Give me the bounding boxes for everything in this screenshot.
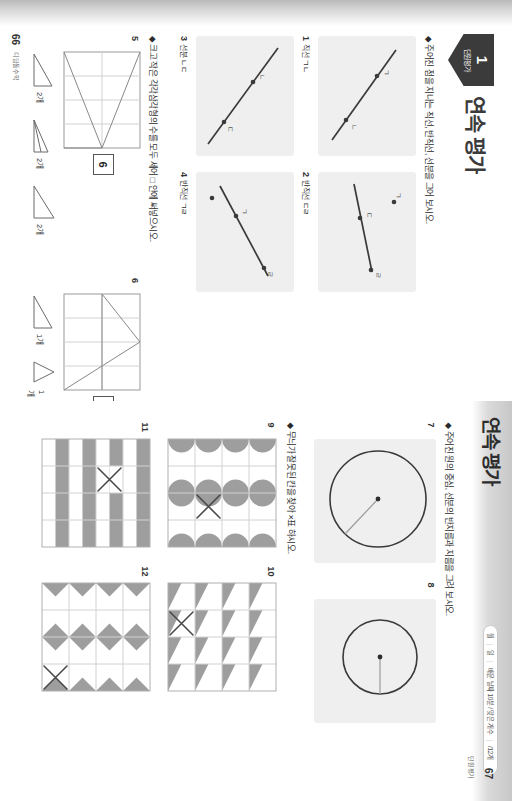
triangle-item-6-number: 6	[130, 278, 140, 283]
pill-divider-3: |	[487, 739, 494, 741]
svg-text:ㄴ: ㄴ	[259, 74, 266, 80]
pattern-item-9-number: 9	[266, 423, 276, 428]
svg-text:ㄴ: ㄴ	[351, 124, 358, 130]
pattern-figure-12	[42, 583, 150, 691]
right-instruction-1: ◆ 주어진 원의 중심, 선분의 반지름과 지름을 그려 보시오.	[444, 423, 456, 616]
figure-box-4: ㄱ ㄹ	[196, 172, 294, 292]
figure-line-4: ㄱ ㄹ	[196, 172, 294, 292]
triangle-count-5a: 2개	[35, 92, 46, 103]
triangle-item-5-answer[interactable]: 6	[93, 154, 114, 175]
figure-line-1: ㄱ ㄴ	[318, 36, 416, 156]
svg-text:ㄱ: ㄱ	[241, 208, 248, 214]
pill-cell-month: 월	[486, 633, 495, 639]
right-page: 연속 평가 월 | 일 | 배운 날짜 10분 / 맞은 개수 | /12개 ◆…	[0, 401, 512, 801]
pill-divider-1: |	[487, 644, 494, 646]
pattern-item-10-number: 10	[266, 567, 276, 577]
line-item-4-label: 반직선 ㄱㄹ	[179, 180, 188, 215]
line-item-1-label: 직선 ㄱㄴ	[301, 44, 310, 72]
svg-text:ㄷ: ㄷ	[366, 212, 373, 218]
score-header-pill: 월 | 일 | 배운 날짜 10분 / 맞은 개수 | /12개	[483, 625, 498, 775]
pattern-item-12-number: 12	[140, 567, 150, 577]
figure-box-2: ㄷ ㄹ ㄱ	[318, 172, 416, 292]
line-item-1: 1직선 ㄱㄴ	[301, 36, 312, 72]
line-item-3-number: 3	[179, 36, 189, 41]
pill-cell-info: 배운 날짜 10분 / 맞은 개수	[486, 668, 495, 735]
figure-box-7	[314, 439, 436, 563]
line-item-3: 3선분 ㄴㄷ	[179, 36, 190, 72]
line-item-1-number: 1	[301, 36, 311, 41]
pattern-item-11-number: 11	[140, 423, 150, 433]
line-item-2-number: 2	[301, 172, 311, 177]
figure-line-2: ㄷ ㄹ ㄱ	[318, 172, 416, 292]
left-page-number: 66	[10, 34, 21, 45]
triangle-item-5-number: 5	[130, 36, 140, 41]
svg-text:ㄱ: ㄱ	[395, 192, 402, 198]
line-item-3-label: 선분 ㄴㄷ	[179, 44, 188, 72]
triangle-count-5c: 2개	[35, 224, 46, 235]
svg-text:ㄹ: ㄹ	[375, 272, 382, 278]
line-item-4-number: 4	[179, 172, 189, 177]
circle-item-7-number: 7	[426, 423, 436, 428]
left-instruction-2: ◆ 크고 작은 각각삼각형의 수를 모두 세어 □ 안에 써넣으시오.	[148, 36, 160, 242]
figure-box-1: ㄱ ㄴ	[318, 36, 416, 156]
right-page-footer: 단원평가	[467, 756, 476, 779]
line-item-2-label: 반직선 ㄷㄹ	[301, 180, 310, 215]
book-spread: 1 단원평가 연속 평가 ◆ 주어진 점을 지나는 직선, 반직선, 선분을 그…	[0, 0, 512, 801]
right-header-title: 연속 평가	[479, 417, 506, 485]
figure-box-8	[314, 599, 436, 723]
pattern-figure-11	[42, 439, 150, 547]
left-page: 1 단원평가 연속 평가 ◆ 주어진 점을 지나는 직선, 반직선, 선분을 그…	[0, 0, 512, 401]
page-canvas: 1 단원평가 연속 평가 ◆ 주어진 점을 지나는 직선, 반직선, 선분을 그…	[0, 0, 512, 801]
line-item-4: 4반직선 ㄱㄹ	[179, 172, 190, 215]
triangle-sample-6b	[32, 360, 58, 386]
circle-figure-7	[314, 439, 436, 563]
triangle-grid-6	[64, 294, 140, 390]
left-unit-title: 연속 평가	[462, 96, 492, 173]
triangle-count-5b: 2개	[35, 158, 46, 169]
chapter-badge-label: 단원평가	[463, 49, 473, 71]
triangle-count-6a: 1개	[35, 334, 46, 345]
left-instruction-1: ◆ 주어진 점을 지나는 직선, 반직선, 선분을 그어 보시오.	[424, 36, 436, 224]
triangle-sample-5a	[32, 52, 58, 88]
triangle-sample-6a	[32, 294, 58, 330]
svg-text:ㄹ: ㄹ	[267, 271, 274, 277]
chapter-badge-number: 1	[475, 56, 490, 64]
page-gutter-shadow	[0, 0, 512, 26]
svg-text:ㄱ: ㄱ	[383, 69, 390, 75]
figure-line-3: ㄴ ㄷ	[196, 36, 294, 156]
triangle-sample-5c	[32, 184, 58, 220]
pattern-figure-10	[168, 583, 276, 691]
svg-text:ㄷ: ㄷ	[227, 126, 234, 132]
circle-figure-8	[314, 599, 436, 723]
pill-cell-day: 일	[486, 650, 495, 656]
triangle-sample-5b	[32, 118, 58, 154]
right-instruction-2: ◆ 무늬가 잘못된 칸을 찾아 ×표 하시오.	[286, 423, 298, 554]
triangle-grid-5	[64, 52, 140, 148]
chapter-badge: 1 단원평가	[448, 34, 494, 86]
pill-cell-total: /12개	[486, 746, 495, 760]
right-page-number: 67	[483, 768, 494, 779]
left-page-footer: 디딤돌수학	[12, 52, 21, 81]
figure-box-3: ㄴ ㄷ	[196, 36, 294, 156]
pattern-figure-9	[168, 439, 276, 547]
circle-item-8-number: 8	[426, 583, 436, 588]
line-item-2: 2반직선 ㄷㄹ	[301, 172, 312, 215]
pill-divider-2: |	[487, 661, 494, 663]
triangle-count-6b: 1개	[26, 390, 46, 401]
